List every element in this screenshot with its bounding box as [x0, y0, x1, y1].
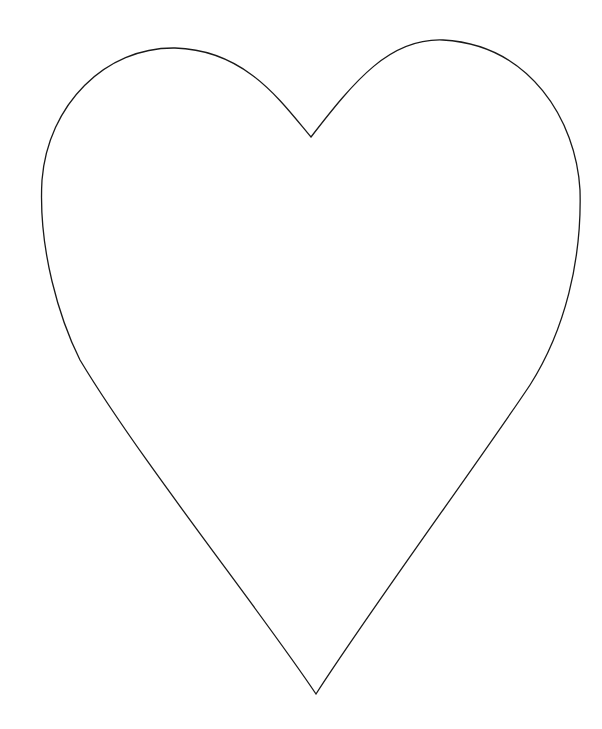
drawing-canvas: [0, 0, 602, 729]
heart-drawing: [0, 0, 602, 729]
heart-icon: [42, 40, 581, 694]
